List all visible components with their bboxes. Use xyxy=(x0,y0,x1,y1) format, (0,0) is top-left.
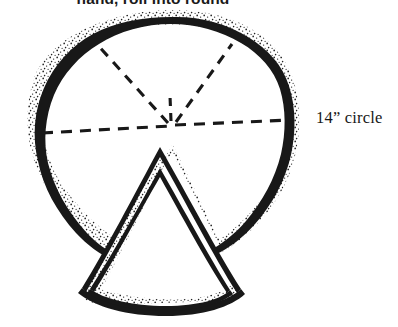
cut-line-left xyxy=(42,126,170,133)
dough-diagram xyxy=(0,0,398,327)
cut-line-right xyxy=(175,120,290,125)
cut-line-upper-right xyxy=(176,44,232,122)
cut-line-upper-left xyxy=(95,42,168,123)
caption-top: hand, roll into round xyxy=(0,0,306,8)
cut-line-up xyxy=(170,96,171,121)
dimension-label: 14” circle xyxy=(316,108,383,128)
figure-page: hand, roll into round 14” circle xyxy=(0,0,398,327)
